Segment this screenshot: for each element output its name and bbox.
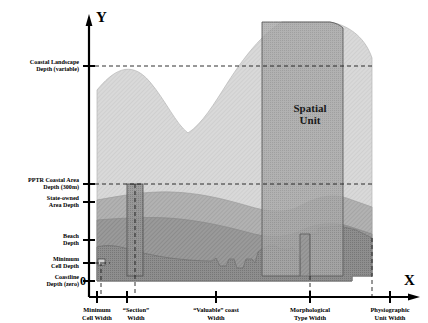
- x-label-section-width: “Section” Width: [123, 306, 149, 321]
- y-label-line2: Depth (variable): [36, 66, 79, 73]
- y-label-state-owned-area-depth: State-owned Area Depth: [47, 195, 80, 208]
- y-label-line2: Depth (zero): [46, 281, 79, 288]
- x-label-line2: Cell Width: [82, 314, 112, 321]
- y-label-line2: Cell Depth: [51, 263, 80, 269]
- y-axis-labels: Coastal Landscape Depth (variable) PPTR …: [28, 59, 80, 288]
- x-axis-arrow: [408, 294, 420, 301]
- x-label-minimum-cell-width: Minimum Cell Width: [82, 306, 112, 321]
- x-label-line1: Physiographic: [370, 306, 409, 313]
- spatial-unit-label-line2: Unit: [300, 114, 321, 126]
- x-label-morphological-type-width: Morphological Type Width: [290, 306, 330, 321]
- spatial-unit-label-line1: Spatial: [293, 102, 326, 114]
- y-label-line2: Depth (300m): [43, 184, 79, 191]
- y-label-line1: Coastal Landscape: [30, 59, 80, 65]
- x-label-line2: Unit Width: [375, 314, 406, 321]
- y-label-line2: Area Depth: [49, 202, 80, 208]
- x-label-line1: Morphological: [290, 306, 330, 313]
- coastal-spatial-unit-diagram: Spatial Unit Y X 0: [0, 0, 428, 323]
- x-label-line2: Type Width: [294, 314, 327, 321]
- minimum-cell-marker: [98, 259, 105, 265]
- y-label-line1: State-owned: [47, 195, 80, 201]
- x-label-valuable-coast-width: “Valuable” coast Width: [193, 306, 240, 321]
- y-axis-letter: Y: [96, 9, 107, 25]
- x-label-line1: “Valuable” coast: [193, 306, 240, 313]
- x-label-line2: Width: [207, 314, 225, 321]
- x-label-line1: Minimum: [83, 306, 111, 313]
- x-axis-labels: Minimum Cell Width “Section” Width “Valu…: [82, 306, 410, 321]
- x-label-physiographic-unit-width: Physiographic Unit Width: [370, 306, 409, 321]
- x-axis-letter: X: [404, 272, 415, 288]
- y-axis-arrow: [86, 14, 93, 26]
- y-label-line1: PPTR Coastal Area: [28, 177, 79, 183]
- y-label-coastline-depth-zero: Coastline Depth (zero): [46, 274, 79, 288]
- y-label-line1: Beach: [63, 233, 80, 239]
- y-label-minimum-cell-depth: Minimum Cell Depth: [51, 256, 80, 269]
- y-label-line1: Minimum: [53, 256, 79, 262]
- y-label-beach-depth: Beach Depth: [63, 233, 80, 246]
- x-label-line2: Width: [127, 314, 145, 321]
- y-label-coastal-landscape-depth: Coastal Landscape Depth (variable): [30, 59, 80, 73]
- y-label-line2: Depth: [63, 240, 80, 246]
- diagram-canvas: Spatial Unit Y X 0: [0, 0, 428, 323]
- x-label-line1: “Section”: [123, 306, 149, 313]
- y-label-line1: Coastline: [55, 274, 80, 280]
- y-label-pptr-coastal-area-depth: PPTR Coastal Area Depth (300m): [28, 177, 79, 191]
